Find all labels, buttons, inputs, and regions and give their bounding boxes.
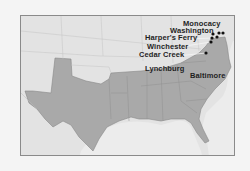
marker-washington [217,31,220,34]
us-map [20,15,235,156]
marker-harpers-ferry [210,36,213,39]
marker-lynchburg [204,51,207,54]
label-lynchburg: Lynchburg [145,65,184,73]
map-frame: Monocacy Washington Harper's Ferry Winch… [20,15,235,156]
label-cedar-creek: Cedar Creek [139,51,184,59]
label-baltimore: Baltimore [190,72,226,80]
marker-winchester [209,40,212,43]
marker-baltimore [221,31,224,34]
marker-winchester-north [215,35,218,38]
label-harpers-ferry: Harper's Ferry [145,34,197,42]
